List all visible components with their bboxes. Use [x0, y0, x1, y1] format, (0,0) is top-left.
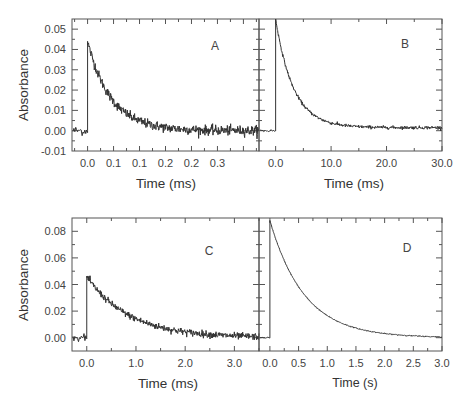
x-tick-label: 10.0	[320, 157, 341, 169]
y-tick-label: 0.03	[45, 64, 66, 76]
x-tick-label: 30.0	[431, 157, 452, 169]
panel-a: 0.00.10.10.20.20.3-0.010.000.010.020.030…	[41, 19, 259, 169]
panel-label: C	[205, 244, 214, 258]
panel-b: 0.010.020.030.0B	[259, 19, 453, 169]
x-tick-label: 0.0	[262, 357, 277, 369]
x-axis-title-c: Time (ms)	[138, 376, 198, 391]
x-tick-label: 2.0	[377, 357, 392, 369]
x-tick-label: 1.0	[320, 357, 335, 369]
x-tick-label: 1.5	[348, 357, 363, 369]
x-tick-label: 2.0	[178, 357, 193, 369]
y-tick-label: 0.08	[45, 225, 66, 237]
plot-frame	[72, 218, 259, 351]
x-axis-title-b: Time (ms)	[324, 176, 384, 191]
absorbance-trace	[73, 276, 259, 342]
x-tick-label: 0.2	[184, 157, 199, 169]
y-tick-label: 0.00	[45, 125, 66, 137]
x-tick-label: 3.0	[434, 357, 449, 369]
x-axis-title-d: Time (s)	[332, 376, 377, 390]
x-tick-label: 2.5	[406, 357, 421, 369]
absorbance-trace	[260, 220, 442, 338]
y-tick-label: 0.02	[45, 305, 66, 317]
y-tick-label: -0.01	[41, 145, 66, 157]
y-tick-label: 0.04	[45, 43, 66, 55]
absorbance-trace	[73, 41, 259, 139]
x-tick-label: 0.1	[106, 157, 121, 169]
x-tick-label: 0.0	[268, 157, 283, 169]
x-tick-label: 20.0	[376, 157, 397, 169]
x-tick-label: 0.0	[79, 357, 94, 369]
x-axis-title-a: Time (ms)	[136, 176, 196, 191]
panel-label: A	[211, 39, 219, 53]
panel-d: 0.00.51.01.52.02.53.0D	[259, 218, 450, 369]
x-tick-label: 1.0	[128, 357, 143, 369]
panel-label: D	[403, 241, 412, 255]
chart-svg: 0.00.10.10.20.20.3-0.010.000.010.020.030…	[0, 0, 467, 400]
absorbance-trace	[260, 19, 442, 132]
y-tick-label: 0.04	[45, 279, 66, 291]
x-tick-label: 0.2	[158, 157, 173, 169]
y-axis-title-bottom: Absorbance	[16, 249, 31, 321]
panel-label: B	[401, 37, 409, 51]
plot-frame	[259, 218, 442, 351]
plot-frame	[259, 19, 442, 151]
y-axis-title-top: Absorbance	[16, 49, 31, 121]
y-tick-label: 0.02	[45, 84, 66, 96]
x-tick-label: 0.1	[132, 157, 147, 169]
figure: 0.00.10.10.20.20.3-0.010.000.010.020.030…	[0, 0, 467, 400]
x-tick-label: 0.0	[80, 157, 95, 169]
y-tick-label: 0.00	[45, 332, 66, 344]
panel-c: 0.01.02.03.00.000.020.040.060.08C	[45, 218, 259, 369]
x-tick-label: 0.5	[291, 357, 306, 369]
y-tick-label: 0.01	[45, 104, 66, 116]
y-tick-label: 0.06	[45, 252, 66, 264]
x-tick-label: 3.0	[227, 357, 242, 369]
caption-fragment	[100, 0, 460, 4]
x-tick-label: 0.3	[210, 157, 225, 169]
y-tick-label: 0.05	[45, 23, 66, 35]
